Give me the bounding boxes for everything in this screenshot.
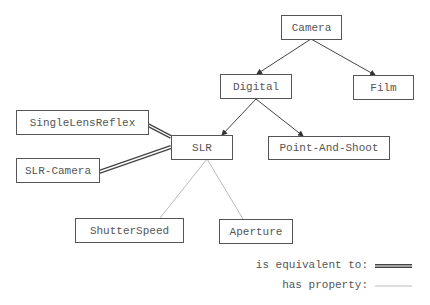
node-label: Camera <box>292 22 332 34</box>
node-label: SLR <box>192 142 212 154</box>
node-film[interactable]: Film <box>353 75 414 100</box>
node-label: Film <box>370 82 396 94</box>
node-label: Aperture <box>230 226 283 238</box>
node-label: ShutterSpeed <box>90 225 169 237</box>
edge-property-aperture <box>207 159 243 219</box>
node-digital[interactable]: Digital <box>220 74 292 99</box>
edge-camera-film <box>311 39 375 75</box>
node-camera[interactable]: Camera <box>281 15 342 40</box>
node-shutter-speed[interactable]: ShutterSpeed <box>75 218 184 243</box>
edge-digital-slr <box>222 99 256 135</box>
node-label: Point-And-Shoot <box>279 142 378 154</box>
node-label: Digital <box>233 81 279 93</box>
node-aperture[interactable]: Aperture <box>219 219 293 244</box>
edge-camera-digital <box>257 39 311 74</box>
edge-equivalent-singlelensreflex <box>148 125 171 137</box>
node-single-lens-reflex[interactable]: SingleLensReflex <box>16 110 149 135</box>
legend-property-label: has property: <box>282 279 368 291</box>
edge-digital-pointandshoot <box>256 99 303 136</box>
node-slr-camera[interactable]: SLR-Camera <box>16 158 100 183</box>
node-slr[interactable]: SLR <box>171 135 233 160</box>
node-label: SLR-Camera <box>25 165 91 177</box>
node-point-and-shoot[interactable]: Point-And-Shoot <box>268 136 390 160</box>
legend-equivalent-label: is equivalent to: <box>256 259 368 271</box>
edge-equivalent-slrcamera <box>99 147 171 172</box>
node-label: SingleLensReflex <box>30 117 136 129</box>
edge-property-shutterspeed <box>160 159 207 218</box>
